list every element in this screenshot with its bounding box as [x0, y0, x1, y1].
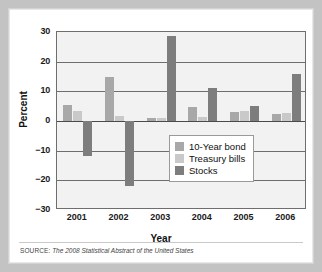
source-divider	[19, 242, 303, 243]
chart-legend: 10-Year bondTreasury billsStocks	[169, 135, 254, 182]
gridline-10	[57, 91, 305, 92]
x-tick-label-2003: 2003	[150, 212, 170, 222]
y-tick-label--10: −10	[13, 145, 50, 155]
legend-label: Treasury bills	[189, 153, 245, 164]
y-tick-label-10: 10	[13, 85, 50, 95]
source-note: SOURCE: The 2008 Statistical Abstract of…	[20, 247, 194, 254]
legend-swatch-icon	[175, 142, 184, 151]
y-tick-label--30: −30	[13, 204, 50, 214]
x-tick-label-2005: 2005	[233, 212, 253, 222]
bar-2002-treasury-bills	[115, 116, 124, 121]
x-tick-label-2001: 2001	[67, 212, 87, 222]
bar-2001-stocks	[83, 121, 92, 156]
bar-2006-10-year-bond	[272, 114, 281, 121]
bar-2003-10-year-bond	[147, 118, 156, 121]
bar-2004-10-year-bond	[188, 107, 197, 121]
figure-container: Percent 3020100−10−20−302001200220032004…	[0, 0, 322, 272]
legend-label: 10-Year bond	[189, 141, 246, 152]
bar-2001-treasury-bills	[73, 111, 82, 121]
bar-2001-10-year-bond	[63, 105, 72, 121]
legend-swatch-icon	[175, 166, 184, 175]
bar-2004-stocks	[208, 88, 217, 121]
x-tick-label-2002: 2002	[108, 212, 128, 222]
bar-2002-stocks	[125, 121, 134, 186]
gridline-20	[57, 62, 305, 63]
bar-2006-treasury-bills	[282, 113, 291, 121]
bar-2005-stocks	[250, 106, 259, 121]
y-tick-label-0: 0	[13, 115, 50, 125]
legend-item-treasury-bills: Treasury bills	[175, 153, 246, 164]
legend-item-10-year-bond: 10-Year bond	[175, 141, 246, 152]
bar-2004-treasury-bills	[198, 117, 207, 121]
source-text: The 2008 Statistical Abstract of the Uni…	[52, 247, 193, 254]
source-label: SOURCE:	[20, 247, 50, 254]
legend-item-stocks: Stocks	[175, 165, 246, 176]
bar-2005-10-year-bond	[230, 112, 239, 121]
gridline-0	[57, 121, 305, 122]
bar-2003-treasury-bills	[157, 118, 166, 121]
bar-2002-10-year-bond	[105, 77, 114, 122]
y-tick-label--20: −20	[13, 174, 50, 184]
bar-2003-stocks	[167, 36, 176, 121]
bar-2006-stocks	[292, 74, 301, 121]
y-tick-label-20: 20	[13, 56, 50, 66]
x-tick-label-2004: 2004	[192, 212, 212, 222]
legend-label: Stocks	[189, 165, 218, 176]
x-tick-label-2006: 2006	[275, 212, 295, 222]
bar-2005-treasury-bills	[240, 111, 249, 121]
y-tick-label-30: 30	[13, 26, 50, 36]
legend-swatch-icon	[175, 154, 184, 163]
chart-card: Percent 3020100−10−20−302001200220032004…	[8, 8, 314, 264]
plot-area	[56, 31, 306, 209]
